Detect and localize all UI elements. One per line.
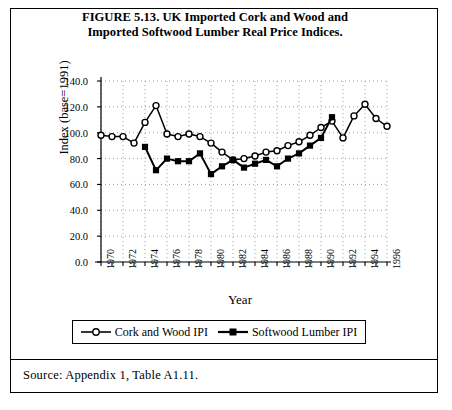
chart-legend: Cork and Wood IPI Softwood Lumber IPI (72, 320, 366, 344)
plot-wrapper: Index (base=1991) Year 140.0120.0100.080… (0, 0, 428, 352)
legend-label-softwood-lumber: Softwood Lumber IPI (252, 325, 357, 340)
source-box: Source: Appendix 1, Table A1.11. (10, 360, 438, 393)
chart-plot (0, 0, 428, 352)
legend-label-cork-and-wood: Cork and Wood IPI (115, 325, 208, 340)
legend-item-softwood-lumber: Softwood Lumber IPI (218, 325, 357, 340)
figure-container: FIGURE 5.13. UK Imported Cork and Wood a… (0, 0, 452, 410)
source-text: Source: Appendix 1, Table A1.11. (23, 368, 198, 383)
filled-square-marker-icon (218, 326, 248, 338)
legend-item-cork-and-wood: Cork and Wood IPI (81, 325, 208, 340)
open-circle-marker-icon (81, 326, 111, 338)
